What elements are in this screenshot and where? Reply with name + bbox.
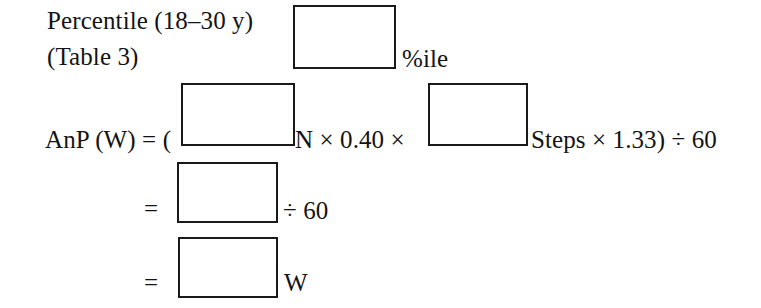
table-reference-label: (Table 3) <box>47 44 138 69</box>
answer-box-subtotal[interactable] <box>177 162 278 223</box>
divide-by-sixty-label: ÷ 60 <box>283 198 328 223</box>
answer-box-anaerobic-power[interactable] <box>178 237 278 298</box>
equation-newtons-factor: N × 0.40 × <box>295 127 405 152</box>
percentile-label: Percentile (18–30 y) <box>47 8 253 33</box>
answer-box-body-mass-n[interactable] <box>181 83 295 146</box>
equals-sign-first: = <box>144 196 158 221</box>
worksheet-canvas: Percentile (18–30 y) (Table 3) %ile AnP … <box>0 0 761 308</box>
equals-sign-second: = <box>144 270 158 295</box>
watts-unit-label: W <box>284 270 308 295</box>
answer-box-step-count[interactable] <box>428 83 528 146</box>
percentile-unit-label: %ile <box>402 46 448 71</box>
equation-left-hand-side: AnP (W) = ( <box>45 127 171 152</box>
equation-steps-tail: Steps × 1.33) ÷ 60 <box>531 127 717 152</box>
answer-box-percentile-value[interactable] <box>293 5 396 69</box>
